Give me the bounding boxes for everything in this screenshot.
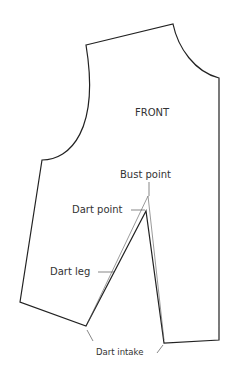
bust-point-label: Bust point — [120, 169, 171, 180]
bodice-front-dart-diagram: FRONT Bust point Dart point Dart leg Dar… — [0, 0, 233, 378]
diagram-canvas: FRONT Bust point Dart point Dart leg Dar… — [0, 0, 233, 378]
dart-intake-label: Dart intake — [96, 347, 143, 357]
dart-leg-label: Dart leg — [50, 266, 90, 277]
dart-point-label: Dart point — [72, 204, 123, 215]
dart-intake-leader-left — [87, 330, 93, 341]
dart-leg-original-right — [148, 196, 164, 340]
front-label: FRONT — [135, 107, 170, 118]
bodice-outline — [20, 24, 219, 343]
dart-intake-leader-right — [157, 345, 163, 353]
